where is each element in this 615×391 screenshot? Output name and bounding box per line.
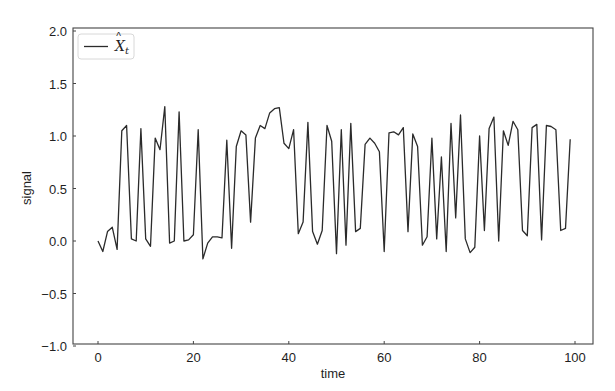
line-chart: 020406080100 −1.0−0.50.00.51.01.52.0 tim…	[0, 0, 615, 391]
y-tick-label: 0.0	[49, 234, 67, 249]
x-axis-label: time	[321, 366, 346, 381]
y-axis-label: signal	[19, 171, 34, 205]
legend-hat-icon: ^	[116, 31, 121, 42]
signal-line	[98, 107, 570, 259]
y-tick-label: −1.0	[41, 339, 67, 354]
y-tick-label: 1.5	[49, 77, 67, 92]
y-tick-label: 0.5	[49, 182, 67, 197]
legend: Xt ^	[78, 31, 134, 59]
x-tick-label: 40	[282, 350, 296, 365]
x-tick-label: 80	[472, 350, 486, 365]
x-tick-label: 100	[564, 350, 586, 365]
x-tick-label: 20	[186, 350, 200, 365]
y-tick-label: −0.5	[41, 287, 67, 302]
x-tick-label: 60	[377, 350, 391, 365]
y-axis-ticks: −1.0−0.50.00.51.01.52.0	[41, 24, 76, 354]
x-tick-label: 0	[94, 350, 101, 365]
y-tick-label: 1.0	[49, 129, 67, 144]
x-axis-ticks: 020406080100	[94, 341, 585, 365]
y-tick-label: 2.0	[49, 24, 67, 39]
